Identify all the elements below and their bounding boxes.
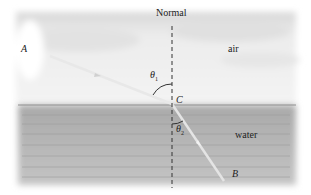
point-a-label: A — [21, 44, 27, 54]
normal-label: Normal — [156, 8, 187, 18]
refraction-diagram: Normal A air θ1 C θ2 water B — [0, 0, 311, 195]
point-c-label: C — [176, 95, 183, 105]
water-label: water — [235, 130, 257, 140]
theta2-label: θ2 — [176, 124, 184, 136]
point-b-label: B — [232, 169, 238, 179]
scene-graphic — [0, 0, 311, 195]
air-label: air — [228, 44, 239, 54]
theta1-label: θ1 — [150, 70, 158, 82]
